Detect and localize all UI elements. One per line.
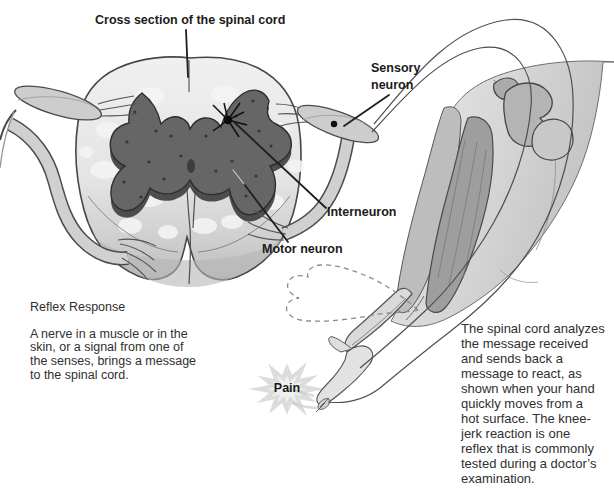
- motor-neuron-label: Motor neuron: [262, 241, 343, 258]
- arm-illustration: [391, 61, 614, 326]
- figure-canvas: Cross section of the spinal cord Sensory…: [0, 0, 614, 499]
- reflex-response-caption: Reflex Response A nerve in a muscle or i…: [30, 287, 196, 396]
- reflex-response-body: A nerve in a muscle or in the skin, or a…: [30, 328, 196, 382]
- reflex-response-heading: Reflex Response: [30, 301, 196, 315]
- sensory-cell-body: [331, 121, 337, 127]
- spinal-cord-response-caption: The spinal cord analyzes the message rec…: [461, 321, 605, 486]
- hand-shape: [317, 346, 373, 405]
- sensory-neuron-label: Sensory neuron: [371, 60, 420, 94]
- interneuron-label: Interneuron: [327, 204, 396, 221]
- pain-label: Pain: [261, 381, 313, 395]
- figure-title: Cross section of the spinal cord: [95, 12, 285, 29]
- left-ganglion: [11, 79, 104, 127]
- right-ganglion: [293, 98, 382, 150]
